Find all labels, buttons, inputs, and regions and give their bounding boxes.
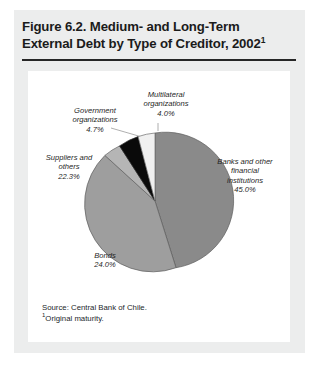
pie-label-banks-line-1: Banks and other <box>217 157 272 166</box>
pie-label-banks-line-3: institutions <box>227 176 263 185</box>
pie-label-banks-value: 45.0% <box>234 185 256 194</box>
pie-label-suppliers: Suppliers and others 22.3% <box>30 153 108 181</box>
figure-title-line-2: External Debt by Type of Creditor, 2002 <box>22 36 261 51</box>
pie-label-multilateral-value: 4.0% <box>157 109 174 118</box>
source-note: Source: Central Bank of Chile. 1Original… <box>42 303 282 324</box>
pie-label-bonds-line-1: Bonds <box>94 251 116 260</box>
figure-title-line-1: Figure 6.2. Medium- and Long-Term <box>22 19 240 34</box>
pie-label-suppliers-line-1: Suppliers and <box>46 153 92 162</box>
page-title: Figure 6.2. Medium- and Long-Term Extern… <box>22 18 304 52</box>
plot-panel: Multilateral organizations 4.0% Governme… <box>28 71 290 342</box>
pie-label-suppliers-value: 22.3% <box>58 172 80 181</box>
pie-label-suppliers-line-2: others <box>58 162 79 171</box>
footnote-text: Original maturity. <box>45 314 103 323</box>
figure-root: Figure 6.2. Medium- and Long-Term Extern… <box>0 0 318 366</box>
pie-label-government-line-1: Government <box>74 106 116 115</box>
pie-label-government-line-2: organizations <box>72 115 117 124</box>
pie-label-bonds: Bonds 24.0% <box>74 251 136 270</box>
pie-label-banks-line-2: financial <box>231 166 259 175</box>
footnote-line: 1Original maturity. <box>42 314 282 325</box>
figure-title-block: Figure 6.2. Medium- and Long-Term Extern… <box>22 18 304 52</box>
source-line: Source: Central Bank of Chile. <box>42 303 147 312</box>
pie-label-bonds-value: 24.0% <box>94 260 116 269</box>
pie-label-multilateral-line-2: organizations <box>143 99 188 108</box>
pie-label-government: Government organizations 4.7% <box>56 106 134 134</box>
pie-label-government-value: 4.7% <box>86 125 103 134</box>
figure-title-footnote-marker: 1 <box>261 35 266 45</box>
pie-label-multilateral: Multilateral organizations 4.0% <box>124 90 208 118</box>
pie-label-multilateral-line-1: Multilateral <box>148 90 185 99</box>
pie-label-banks: Banks and other financial institutions 4… <box>200 157 290 195</box>
title-divider <box>22 59 296 61</box>
